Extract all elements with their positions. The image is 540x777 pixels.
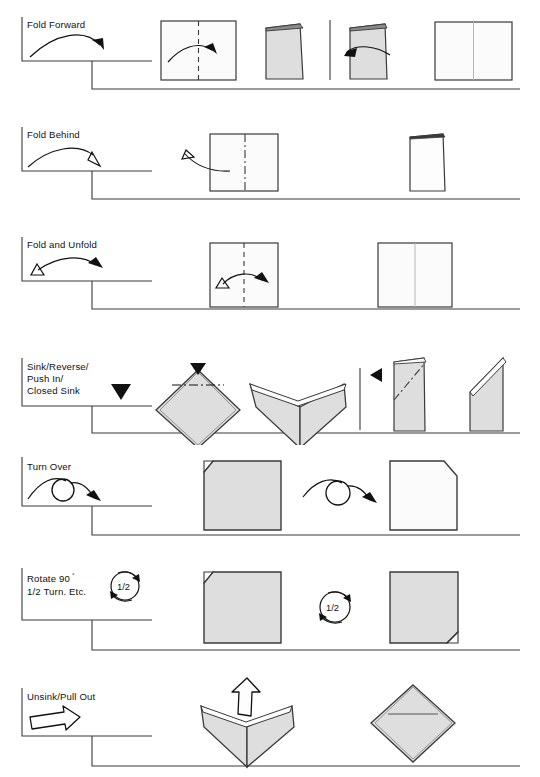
step-folded-flap-with-reverse-crease	[394, 358, 426, 431]
step-flap-reversed	[470, 358, 506, 431]
origami-symbols-chart: Fold Forward	[0, 0, 540, 777]
row-label-line-1: Rotate 90	[27, 573, 70, 584]
fold-unfold-arrow-icon	[31, 257, 103, 275]
row-baseline	[92, 736, 520, 766]
row-label: Fold and Unfold	[27, 239, 97, 250]
step-shaded-square-corner-folded-bottom-right	[390, 572, 458, 643]
rotation-badge-label: 1/2	[117, 581, 130, 592]
step-square-with-crease-line	[435, 22, 512, 80]
reverse-triangle-icon	[370, 368, 382, 382]
pull-out-block-arrow-icon	[30, 706, 80, 730]
step-square-with-valley-crease	[161, 21, 236, 80]
fold-forward-arrow-icon	[30, 35, 104, 57]
row-label: Fold Forward	[27, 19, 85, 30]
rotation-badge-step: 1/2	[319, 592, 351, 623]
row-baseline	[92, 171, 520, 199]
turn-over-loop-arrow-icon-step	[303, 480, 377, 505]
step-folded-rectangle-behind	[410, 134, 445, 191]
row-rotate: Rotate 90 ° 1/2 Turn. Etc. 1/2	[0, 555, 540, 670]
step-folded-rectangle-unfolding	[344, 24, 390, 79]
row-label: Turn Over	[27, 461, 72, 472]
step-square-with-crease-mark	[378, 243, 452, 307]
step-diamond-unsunk	[371, 685, 455, 762]
fold-behind-arrow-icon	[28, 148, 100, 167]
row-label-line-2: 1/2 Turn. Etc.	[27, 586, 86, 597]
step-shaded-square-corner-folded	[204, 461, 281, 530]
row-fold-and-unfold: Fold and Unfold	[0, 220, 540, 330]
row-fold-behind: Fold Behind	[0, 110, 540, 220]
row-label-line-1: Sink/Reverse/	[27, 361, 89, 372]
rotation-badge-label: 1/2	[326, 602, 339, 613]
step-diamond-sunk-top	[250, 384, 346, 445]
turn-over-loop-arrow-icon	[28, 479, 101, 501]
row-label: Fold Behind	[27, 129, 80, 140]
row-label-line-2: Push In/	[27, 373, 64, 384]
row-baseline	[92, 281, 520, 309]
row-fold-forward: Fold Forward	[0, 0, 540, 110]
step-shaded-square-corner-folded-top-left	[204, 572, 281, 643]
step-white-square-corner-cut	[390, 461, 457, 530]
row-turn-over: Turn Over	[0, 445, 540, 555]
sink-triangle-icon-step	[190, 363, 206, 375]
row-label-line-3: Closed Sink	[27, 385, 80, 396]
step-square-fold-unfold	[210, 243, 278, 307]
step-diamond-with-pull-out-arrow	[201, 678, 294, 767]
sink-triangle-icon	[111, 384, 131, 400]
degree-symbol: °	[72, 571, 75, 578]
row-unsink-pull-out: Unsink/Pull Out	[0, 670, 540, 777]
step-square-with-mountain-crease	[182, 134, 278, 191]
step-folded-half-rectangle	[266, 24, 303, 79]
row-sink-reverse: Sink/Reverse/ Push In/ Closed Sink	[0, 330, 540, 445]
pull-out-arrow-icon-step	[232, 678, 260, 716]
rotation-badge-legend: 1/2	[110, 572, 140, 601]
row-label: Unsink/Pull Out	[27, 691, 96, 702]
